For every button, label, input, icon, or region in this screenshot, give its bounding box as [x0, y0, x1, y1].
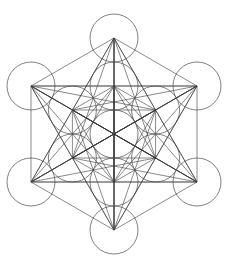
connecting-line [31, 182, 114, 230]
metatrons-cube-diagram [0, 0, 230, 263]
connecting-line [114, 182, 197, 230]
connecting-line [31, 38, 114, 86]
connecting-line [114, 38, 197, 86]
connecting-lines [31, 38, 197, 230]
